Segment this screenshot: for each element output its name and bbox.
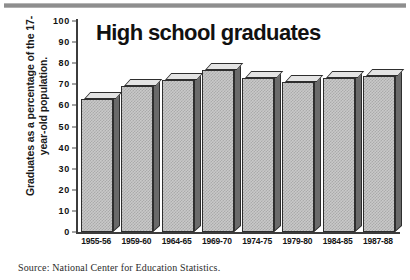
x-axis-line bbox=[76, 232, 400, 234]
bar-front-face bbox=[81, 99, 113, 232]
x-axis-tick-label: 1987-88 bbox=[358, 236, 398, 246]
x-axis-tick-label: 1974-75 bbox=[237, 236, 277, 246]
y-axis-tick-mark bbox=[72, 105, 76, 106]
y-axis-tick-mark bbox=[72, 42, 76, 43]
x-axis-tick-label: 1979-80 bbox=[277, 236, 317, 246]
y-axis-tick-labels: 1009080706050403020100 bbox=[46, 21, 70, 232]
y-axis-tick-mark bbox=[72, 210, 76, 211]
y-axis-tick-label: 20 bbox=[46, 185, 70, 195]
bar-side-face bbox=[234, 63, 241, 232]
plot-area bbox=[78, 21, 400, 232]
bar-top-face bbox=[84, 92, 122, 99]
y-axis-tick-mark bbox=[72, 126, 76, 127]
bar-1987-88[interactable] bbox=[363, 21, 395, 232]
y-axis-tick-label: 30 bbox=[46, 164, 70, 174]
bar-1984-85[interactable] bbox=[323, 21, 355, 232]
y-axis-tick-label: 50 bbox=[46, 122, 70, 132]
y-axis-tick-mark bbox=[72, 21, 76, 22]
bar-side-face bbox=[274, 72, 281, 232]
x-axis-tick-label: 1969-70 bbox=[197, 236, 237, 246]
x-axis-tick-label: 1955-56 bbox=[76, 236, 116, 246]
bar-side-face bbox=[153, 80, 160, 232]
bar-side-face bbox=[355, 72, 362, 232]
x-axis-tick-label: 1964-65 bbox=[157, 236, 197, 246]
y-axis-tick-label: 10 bbox=[46, 206, 70, 216]
bar-front-face bbox=[162, 80, 194, 232]
figure-page: Graduates as a percentage of the 17- yea… bbox=[0, 0, 410, 280]
y-axis-tick-mark bbox=[72, 168, 76, 169]
bar-side-face bbox=[314, 76, 321, 232]
bar-chart: Graduates as a percentage of the 17- yea… bbox=[0, 8, 410, 253]
bar-front-face bbox=[202, 70, 234, 232]
y-axis-tick-label: 70 bbox=[46, 79, 70, 89]
bar-top-face bbox=[366, 69, 404, 76]
source-note: Source: National Center for Education St… bbox=[18, 262, 220, 273]
y-axis-tick-label: 60 bbox=[46, 100, 70, 110]
bar-1955-56[interactable] bbox=[81, 21, 113, 232]
x-axis-tick-label: 1959-60 bbox=[116, 236, 156, 246]
bar-front-face bbox=[282, 82, 314, 232]
y-axis-tick-label: 100 bbox=[46, 16, 70, 26]
x-axis-tick-labels: 1955-561959-601964-651969-701974-751979-… bbox=[78, 236, 400, 252]
y-axis-tick-mark bbox=[72, 63, 76, 64]
bar-1964-65[interactable] bbox=[162, 21, 194, 232]
bar-side-face bbox=[395, 70, 402, 232]
bar-front-face bbox=[242, 78, 274, 232]
x-axis-tick-label: 1984-85 bbox=[318, 236, 358, 246]
y-axis-tick-label: 90 bbox=[46, 37, 70, 47]
bar-side-face bbox=[194, 74, 201, 232]
bar-1974-75[interactable] bbox=[242, 21, 274, 232]
bar-1959-60[interactable] bbox=[121, 21, 153, 232]
bar-front-face bbox=[363, 76, 395, 232]
bar-top-face bbox=[245, 71, 283, 78]
bar-side-face bbox=[113, 93, 120, 232]
bar-top-face bbox=[165, 73, 203, 80]
y-axis-tick-mark bbox=[72, 84, 76, 85]
bar-front-face bbox=[323, 78, 355, 232]
y-axis-tick-label: 80 bbox=[46, 58, 70, 68]
y-axis-tick-label: 0 bbox=[46, 227, 70, 237]
bar-1979-80[interactable] bbox=[282, 21, 314, 232]
y-axis-caption-line-1: Graduates as a percentage of the 17- bbox=[24, 0, 37, 221]
bar-1969-70[interactable] bbox=[202, 21, 234, 232]
bar-front-face bbox=[121, 86, 153, 232]
y-axis-tick-label: 40 bbox=[46, 143, 70, 153]
y-axis-tick-mark bbox=[72, 189, 76, 190]
bar-top-face bbox=[205, 63, 243, 70]
bar-top-face bbox=[326, 71, 364, 78]
y-axis-tick-mark bbox=[72, 232, 76, 233]
y-axis-tick-mark bbox=[72, 147, 76, 148]
